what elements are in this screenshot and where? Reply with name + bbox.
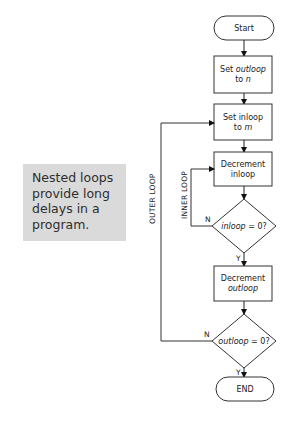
decrement-outloop-box: Decrement outloop: [214, 266, 272, 301]
outer-loop-label: OUTER LOOP: [148, 173, 157, 224]
flowchart: Start Set outloop to n Set inloop to m D…: [0, 0, 298, 422]
dec-inloop-line2: inloop: [231, 170, 255, 179]
outloop-check-decision: outloop = 0?: [212, 314, 276, 368]
outloop-yes-label: Y: [235, 368, 241, 377]
inner-loop-label: INNER LOOP: [180, 171, 189, 219]
set-outloop-line2: to n: [235, 75, 251, 84]
inloop-check-decision: inloop = 0?: [212, 199, 276, 253]
inloop-no-label: N: [205, 215, 211, 224]
inloop-check-label: inloop = 0?: [221, 222, 267, 231]
set-outloop-box: Set outloop to n: [214, 56, 272, 93]
dec-inloop-line1: Decrement: [221, 160, 265, 169]
inloop-yes-label: Y: [235, 254, 241, 263]
set-inloop-box: Set inloop to m: [214, 104, 272, 140]
outloop-check-label: outloop = 0?: [218, 337, 269, 346]
set-inloop-line1: Set inloop: [223, 113, 263, 122]
end-label: END: [236, 385, 253, 394]
set-inloop-line2: to m: [234, 123, 253, 132]
start-label: Start: [234, 24, 254, 33]
dec-outloop-line1: Decrement: [221, 274, 265, 283]
start-terminal: Start: [214, 16, 274, 40]
outloop-no-label: N: [204, 330, 210, 339]
decrement-inloop-box: Decrement inloop: [214, 152, 272, 186]
set-outloop-line1: Set outloop: [220, 65, 266, 74]
dec-outloop-line2: outloop: [228, 284, 258, 293]
outer-loop-arrow: [161, 123, 214, 341]
end-terminal: END: [216, 377, 274, 401]
